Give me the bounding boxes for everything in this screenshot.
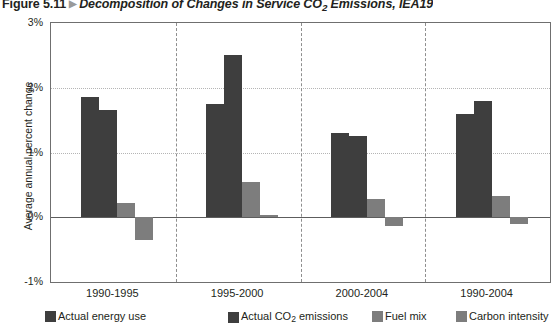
y-axis-ticks: 3%2%1%0%-1% xyxy=(50,22,551,283)
y-tick-label: 2% xyxy=(3,82,43,93)
x-tick-label: 2000-2004 xyxy=(300,287,425,299)
legend-swatch-icon xyxy=(228,312,239,323)
y-tick-label: -1% xyxy=(3,276,43,287)
x-tick-label: 1995-2000 xyxy=(175,287,300,299)
y-tick-label: 3% xyxy=(3,17,43,28)
legend-label-subscript: 2 xyxy=(291,314,296,324)
x-tick-label: 1990-2004 xyxy=(424,287,549,299)
figure-title-text-post: Emissions, IEA19 xyxy=(327,0,433,11)
legend-swatch-icon xyxy=(372,311,383,322)
legend-item[interactable]: Actual energy use xyxy=(45,310,146,322)
legend-label: Carbon intensity xyxy=(467,310,549,322)
triangle-marker-icon: ▶ xyxy=(66,0,79,9)
figure-title-text-pre: Decomposition of Changes in Service CO xyxy=(79,0,322,11)
x-tick-label: 1990-1995 xyxy=(50,287,175,299)
legend-swatch-icon xyxy=(45,311,56,322)
legend-item[interactable]: Fuel mix xyxy=(372,310,427,322)
legend-label: Actual CO2 emissions xyxy=(239,310,348,324)
y-tick-label: 1% xyxy=(3,147,43,158)
y-tick-label: 0% xyxy=(3,211,43,222)
x-axis-ticks: 1990-19951995-20002000-20041990-2004 xyxy=(50,287,551,303)
legend-label: Fuel mix xyxy=(383,310,427,322)
figure-number: Figure 5.11 xyxy=(2,0,66,11)
legend-label: Actual energy use xyxy=(56,310,146,322)
legend-swatch-icon xyxy=(456,311,467,322)
figure-title: Figure 5.11▶Decomposition of Changes in … xyxy=(2,0,433,13)
legend-item[interactable]: Actual CO2 emissions xyxy=(228,310,348,324)
chart-legend: Actual energy useActual CO2 emissionsFue… xyxy=(0,310,555,335)
legend-item[interactable]: Carbon intensity xyxy=(456,310,549,322)
